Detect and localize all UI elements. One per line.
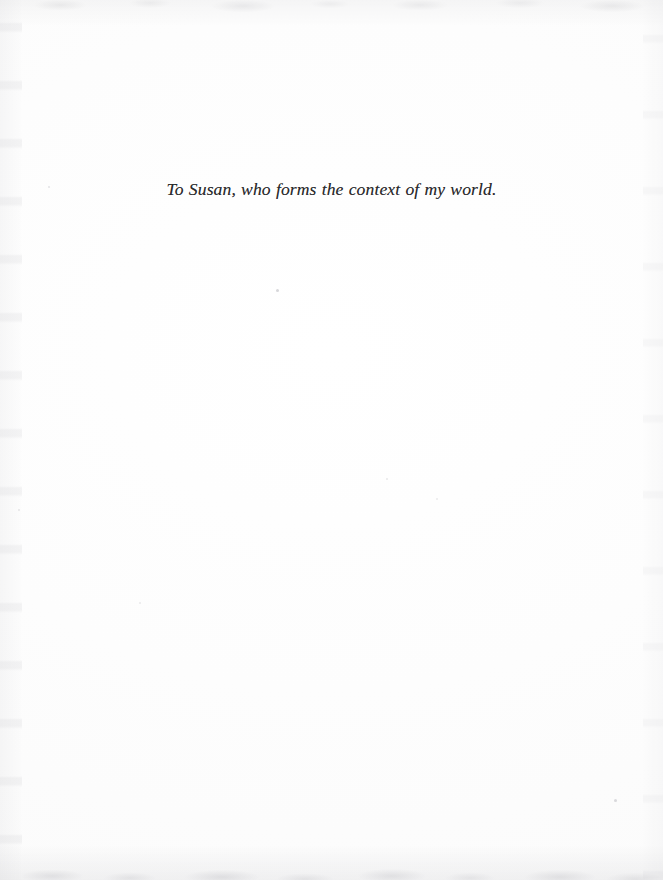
dedication-text: To Susan, who forms the context of my wo… [166, 178, 496, 202]
scan-speck [18, 509, 20, 511]
scanned-book-page: To Susan, who forms the context of my wo… [0, 0, 663, 880]
scan-artifact-right-gutter [643, 0, 663, 880]
scan-speck [614, 799, 617, 802]
scan-artifact-top-edge [0, 0, 663, 26]
paper-tone-layer [0, 0, 663, 880]
scan-artifact-left-gutter [0, 0, 22, 880]
dedication-block: To Susan, who forms the context of my wo… [0, 178, 663, 202]
scan-speck [276, 289, 279, 292]
scan-artifact-bottom-edge [0, 846, 663, 880]
scan-speck [139, 602, 141, 604]
scan-speck [436, 498, 438, 500]
scan-speck [386, 478, 388, 480]
